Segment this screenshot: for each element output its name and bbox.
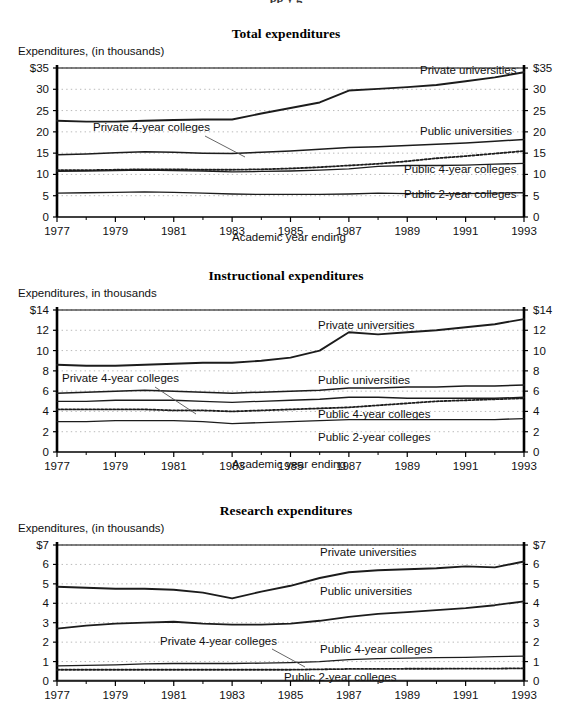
x-tick-label: 1983 (219, 689, 245, 701)
y-tick-label-left: 0 (43, 446, 49, 458)
y-tick-label-right: 1 (533, 656, 539, 668)
y-tick-label-left: 2 (43, 426, 49, 438)
x-tick-label: 1981 (161, 225, 187, 237)
x-tick-label: 1991 (453, 689, 479, 701)
x-tick-label: 1989 (394, 225, 420, 237)
y-tick-label-left: 5 (43, 190, 49, 202)
series-label: Public 2-year colleges (404, 188, 517, 200)
y-tick-label-right: 30 (533, 83, 546, 95)
series-line (57, 668, 524, 669)
y-tick-label-right: $35 (533, 62, 552, 74)
y-tick-label-right: 2 (533, 636, 539, 648)
series-label: Public 4-year colleges (404, 163, 517, 175)
y-tick-label-left: 10 (36, 168, 49, 180)
y-tick-label-left: 4 (43, 405, 50, 417)
y-tick-label-right: 0 (533, 675, 539, 687)
chart-title-instructional: Instructional expenditures (0, 268, 572, 284)
series-label: Public 2-year colleges (318, 431, 431, 443)
y-tick-label-left: 25 (36, 105, 49, 117)
series-line (57, 656, 524, 666)
series-label: Public 4-year colleges (318, 408, 431, 420)
series-line (57, 419, 524, 424)
y-tick-label-right: 6 (533, 385, 539, 397)
chart-page: pp y g Total expenditures Expenditures, … (0, 0, 572, 708)
y-tick-label-right: $14 (533, 304, 553, 316)
x-axis-label-total: Academic year ending (232, 231, 346, 243)
y-tick-label-right: 12 (533, 324, 546, 336)
y-tick-label-left: 4 (43, 597, 50, 609)
cropped-page-header: pp y g (0, 0, 572, 3)
x-tick-label: 1979 (103, 225, 129, 237)
plot-area-research: 00112233445566$7$71977197919811983198519… (0, 539, 572, 708)
series-line (57, 385, 524, 393)
x-tick-label: 1991 (453, 460, 479, 472)
x-tick-label: 1989 (394, 689, 420, 701)
y-tick-label-left: 20 (36, 126, 49, 138)
y-tick-label-left: $14 (30, 304, 50, 316)
x-tick-label: 1977 (44, 689, 70, 701)
y-tick-label-right: 25 (533, 105, 546, 117)
y-tick-label-left: 1 (43, 656, 49, 668)
y-tick-label-left: 6 (43, 558, 49, 570)
y-axis-label-instructional: Expenditures, in thousands (18, 287, 157, 299)
y-tick-label-right: $7 (533, 539, 546, 551)
series-label: Public universities (420, 125, 512, 137)
y-tick-label-left: 0 (43, 675, 49, 687)
y-tick-label-left: 12 (36, 324, 49, 336)
callout-leader-line (272, 649, 305, 667)
y-tick-label-left: 30 (36, 83, 49, 95)
y-axis-label-total: Expenditures, (in thousands) (18, 45, 164, 57)
series-label: Private universities (420, 64, 517, 76)
x-tick-label: 1979 (103, 460, 129, 472)
series-label: Private universities (318, 319, 415, 331)
y-tick-label-right: 8 (533, 365, 539, 377)
x-tick-label: 1985 (278, 689, 304, 701)
series-line (57, 319, 524, 366)
series-label: Public 4-year colleges (320, 643, 433, 655)
x-tick-label: 1987 (336, 689, 362, 701)
y-tick-label-left: 0 (43, 211, 49, 223)
series-label: Public 2-year colleges (284, 671, 397, 683)
y-tick-label-right: 2 (533, 426, 539, 438)
series-line (57, 562, 524, 599)
series-label: Public universities (318, 374, 410, 386)
y-tick-label-left: 15 (36, 147, 49, 159)
series-label: Private 4-year colleges (93, 121, 210, 133)
series-line (57, 72, 524, 121)
chart-title-total: Total expenditures (0, 26, 572, 42)
y-tick-label-left: $7 (36, 539, 49, 551)
y-tick-label-left: 5 (43, 578, 49, 590)
y-tick-label-left: 3 (43, 617, 49, 629)
y-tick-label-right: 5 (533, 578, 539, 590)
y-tick-label-right: 6 (533, 558, 539, 570)
y-axis-label-research: Expenditures, (in thousands) (18, 522, 164, 534)
x-tick-label: 1981 (161, 460, 187, 472)
y-tick-label-left: 2 (43, 636, 49, 648)
y-tick-label-right: 10 (533, 345, 546, 357)
y-tick-label-right: 0 (533, 211, 539, 223)
x-tick-label: 1979 (103, 689, 129, 701)
y-tick-label-left: 8 (43, 365, 49, 377)
series-line (57, 140, 524, 155)
y-tick-label-right: 4 (533, 405, 540, 417)
y-tick-label-right: 3 (533, 617, 539, 629)
x-tick-label: 1993 (511, 225, 537, 237)
y-tick-label-right: 0 (533, 446, 539, 458)
y-tick-label-left: $35 (30, 62, 49, 74)
x-tick-label: 1993 (511, 689, 537, 701)
x-tick-label: 1991 (453, 225, 479, 237)
y-tick-label-right: 5 (533, 190, 539, 202)
series-label: Public universities (320, 585, 412, 597)
series-label: Private 4-year colleges (62, 372, 179, 384)
chart-title-research: Research expenditures (0, 503, 572, 519)
x-tick-label: 1981 (161, 689, 187, 701)
series-label: Private 4-year colleges (160, 635, 277, 647)
x-tick-label: 1993 (511, 460, 537, 472)
x-tick-label: 1977 (44, 460, 70, 472)
y-tick-label-right: 10 (533, 168, 546, 180)
y-tick-label-left: 6 (43, 385, 49, 397)
x-tick-label: 1989 (394, 460, 420, 472)
y-tick-label-right: 15 (533, 147, 546, 159)
x-axis-label-instructional: Academic year ending (232, 458, 346, 470)
x-tick-label: 1977 (44, 225, 70, 237)
